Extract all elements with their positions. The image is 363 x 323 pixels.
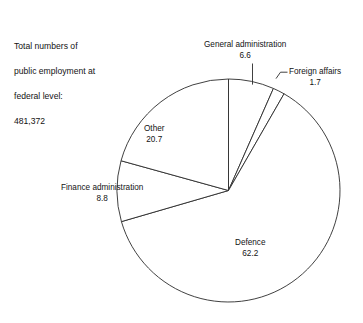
- slice-label-defence: Defence 62.2: [235, 238, 266, 259]
- slice-label-defence-name: Defence: [235, 238, 266, 247]
- slice-value-defence: 62.2: [235, 249, 266, 260]
- slice-label-finance-administration-name: Finance administration: [61, 183, 143, 192]
- slice-value-other: 20.7: [144, 135, 164, 146]
- slice-value-general-administration: 6.6: [204, 51, 286, 62]
- leader-lines: [253, 64, 288, 85]
- slice-label-general-administration-name: General administration: [204, 40, 286, 49]
- pie-chart: Total numbers of public employment at fe…: [0, 0, 363, 323]
- slice-label-general-administration: General administration 6.6: [204, 40, 286, 61]
- pie-slices: [117, 79, 340, 302]
- slice-value-foreign-affairs: 1.7: [289, 78, 341, 89]
- slice-label-foreign-affairs-name: Foreign affairs: [289, 67, 341, 76]
- pie-svg: [0, 0, 363, 323]
- slice-label-other: Other 20.7: [144, 124, 164, 145]
- slice-label-other-name: Other: [144, 124, 164, 133]
- slice-value-finance-administration: 8.8: [61, 194, 143, 205]
- slice-label-finance-administration: Finance administration 8.8: [61, 183, 143, 204]
- slice-label-foreign-affairs: Foreign affairs 1.7: [289, 67, 341, 88]
- leader-foreign-affairs: [276, 72, 288, 78]
